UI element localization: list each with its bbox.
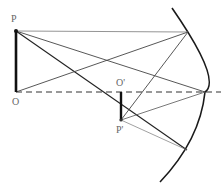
label-p: P — [11, 14, 17, 24]
ray-p-to-upper-hit — [16, 31, 188, 32]
concave-mirror — [160, 8, 209, 182]
ray-o-to-upper-hit — [16, 32, 188, 92]
reflected-lower-to-pprime — [121, 120, 187, 150]
object-tip — [14, 29, 18, 33]
reflected-upper-to-pprime — [121, 32, 188, 120]
reflected-vertex-to-pprime — [121, 92, 205, 120]
image-tip — [119, 118, 122, 121]
ray-p-to-vertex — [16, 31, 205, 92]
ray-p-to-lower-hit — [16, 31, 187, 150]
label-o-prime: O' — [116, 78, 125, 88]
label-o: O — [12, 97, 19, 107]
ray-diagram — [0, 0, 221, 188]
label-p-prime: P' — [116, 125, 123, 135]
